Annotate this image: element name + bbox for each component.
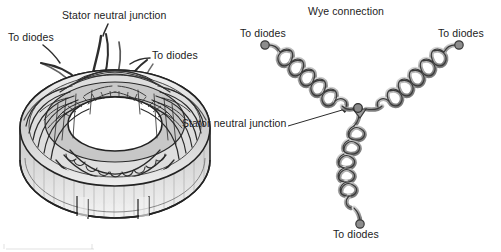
terminal-dot-upper-right [455, 41, 463, 49]
scan-artifact [2, 243, 122, 250]
wye-neutral-leader-line [288, 108, 349, 126]
figure-canvas: Stator neutral junction To diodes To dio… [0, 0, 501, 252]
wye-connection-schematic: Wye connection To diodes To diodes To di… [250, 0, 501, 252]
terminal-dot-upper-left [261, 41, 269, 49]
terminal-dot-bottom [356, 220, 364, 228]
coil-arm-bottom [338, 112, 364, 228]
wye-neutral-junction-node [353, 104, 366, 118]
coil-arm-upper-right [366, 41, 463, 110]
coil-arm-upper-left [261, 41, 353, 110]
wye-coil-drawing [250, 0, 501, 252]
